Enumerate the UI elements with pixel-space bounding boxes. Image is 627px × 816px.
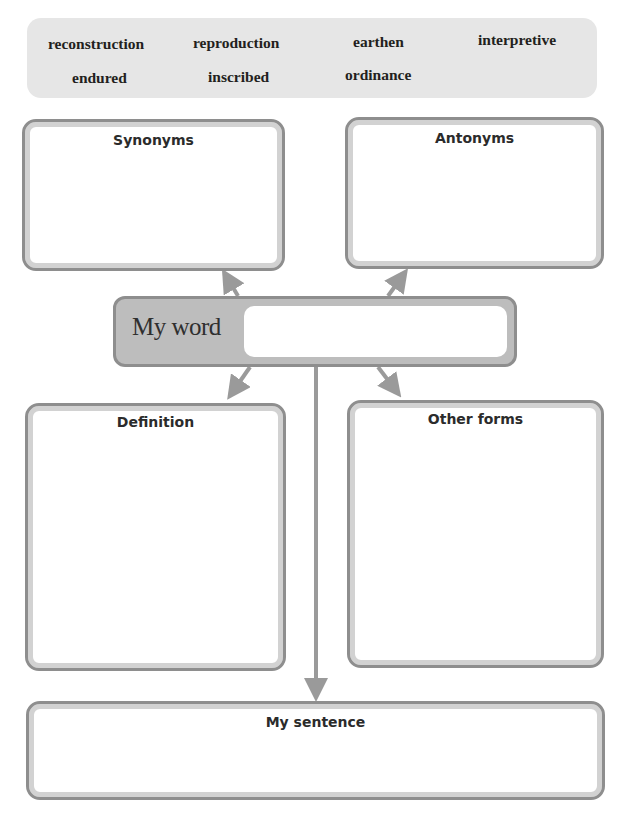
definition-title: Definition xyxy=(28,414,283,430)
synonyms-box[interactable]: Synonyms xyxy=(22,119,285,271)
arrow-to-synonyms-icon xyxy=(228,279,238,296)
arrow-to-other-forms-icon xyxy=(378,367,394,388)
my-word-label: My word xyxy=(132,313,221,341)
arrow-to-definition-icon xyxy=(234,367,250,390)
antonyms-box[interactable]: Antonyms xyxy=(345,117,604,269)
synonyms-title: Synonyms xyxy=(25,132,282,148)
my-word-input[interactable] xyxy=(244,306,507,357)
my-word-bar: My word xyxy=(113,296,517,367)
other-forms-input-area[interactable] xyxy=(355,408,596,660)
my-sentence-box[interactable]: My sentence xyxy=(26,701,605,800)
definition-input-area[interactable] xyxy=(33,411,278,663)
other-forms-title: Other forms xyxy=(350,411,601,427)
my-sentence-title: My sentence xyxy=(29,714,602,730)
antonyms-title: Antonyms xyxy=(348,130,601,146)
arrow-to-antonyms-icon xyxy=(388,278,401,296)
definition-box[interactable]: Definition xyxy=(25,403,286,671)
other-forms-box[interactable]: Other forms xyxy=(347,400,604,668)
